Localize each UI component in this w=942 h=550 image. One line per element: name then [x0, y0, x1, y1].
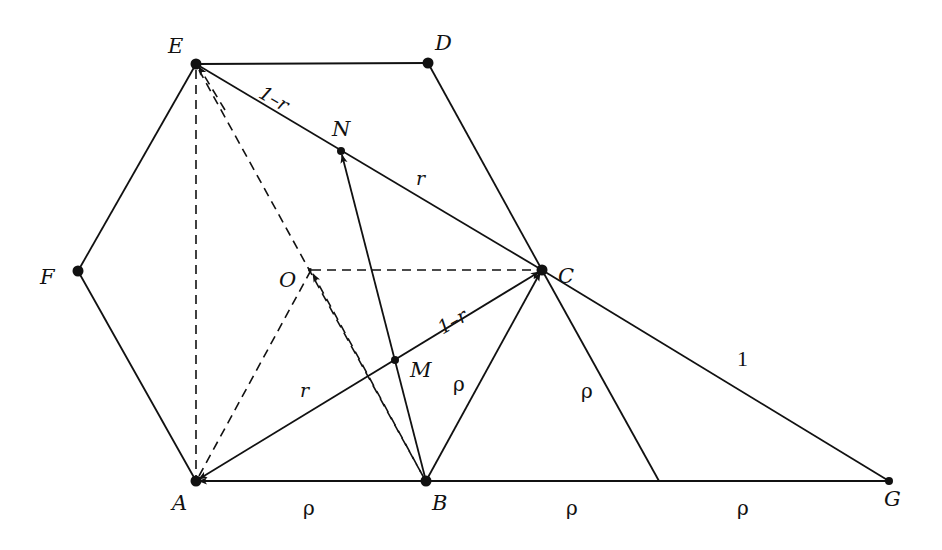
label-segment-NC: r: [416, 167, 427, 189]
point-E: [191, 59, 202, 70]
label-segment-CP: ρ: [581, 379, 593, 403]
dashed-EB: [199, 70, 424, 478]
point-M: [391, 356, 399, 364]
segment-labels: 1–r r r 1–r ρ ρ ρ ρ ρ 1: [255, 81, 748, 520]
label-segment-AM: r: [300, 379, 311, 401]
label-segment-BC: ρ: [453, 372, 465, 396]
label-B: B: [431, 491, 447, 515]
edge-ED: [196, 63, 428, 64]
segment-CP: [542, 270, 659, 481]
point-C: [537, 265, 548, 276]
edge-DC: [428, 63, 542, 270]
point-G: [885, 477, 893, 485]
label-N: N: [331, 117, 351, 141]
point-D: [423, 58, 434, 69]
point-F: [73, 266, 84, 277]
label-segment-CG: 1: [737, 346, 748, 371]
dashed-lines: [196, 67, 540, 478]
label-segment-AB: ρ: [303, 496, 315, 520]
label-G: G: [884, 487, 901, 511]
edge-FA: [78, 271, 196, 481]
edge-EF: [78, 64, 196, 271]
label-segment-EN: 1–r: [255, 81, 294, 116]
point-B: [421, 476, 432, 487]
label-A: A: [170, 491, 187, 515]
edge-BC: [426, 273, 540, 481]
point-labels: E D F O C N M A B G: [39, 31, 901, 515]
label-O: O: [279, 268, 296, 292]
label-E: E: [167, 34, 183, 58]
label-M: M: [409, 358, 432, 382]
segment-CG: [542, 270, 889, 481]
point-O: [308, 268, 312, 272]
label-F: F: [39, 265, 56, 289]
label-D: D: [434, 31, 452, 55]
vector-AC: [199, 272, 539, 479]
label-C: C: [558, 264, 574, 288]
point-N: [337, 147, 345, 155]
point-A: [191, 476, 202, 487]
label-segment-BP: ρ: [566, 496, 578, 520]
vector-BN: [342, 155, 426, 481]
label-segment-PG: ρ: [737, 496, 749, 520]
hexagon-vector-diagram: E D F O C N M A B G 1–r r r 1–r ρ ρ ρ ρ …: [0, 0, 942, 550]
segment-EC: [196, 64, 542, 270]
